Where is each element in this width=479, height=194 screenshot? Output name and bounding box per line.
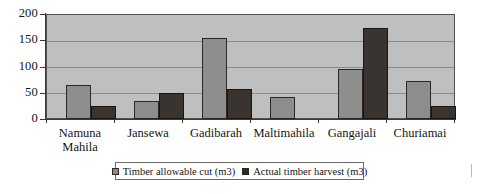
- x-axis-label-gangajali: Gangajali: [318, 126, 386, 140]
- x-axis-label-namuna-mahila: Namuna Mahila: [46, 126, 114, 154]
- y-axis-label-150: 150: [0, 33, 38, 45]
- legend-swatch-icon-allowable-cut: [112, 168, 119, 175]
- x-tick-2: [182, 119, 183, 123]
- bar-jansewa-allowable-cut: [134, 101, 159, 119]
- bar-chart: 200 150 100 50 0 Namuna Mahila Jansewa: [0, 0, 479, 194]
- bar-namuna-mahila-allowable-cut: [66, 85, 91, 119]
- x-axis-label-maltimahila: Maltimahila: [248, 126, 320, 140]
- legend-swatch-icon-actual-harvest: [242, 168, 249, 175]
- legend-label-allowable-cut: Timber allowable cut (m3): [123, 166, 235, 177]
- x-axis-label-line1: Gangajali: [328, 126, 377, 140]
- x-axis-label-gadibarah: Gadibarah: [182, 126, 250, 140]
- x-tick-6: [454, 119, 455, 123]
- x-axis-label-line1: Gadibarah: [190, 126, 242, 140]
- bar-gadibarah-actual-harvest: [227, 89, 252, 120]
- bar-jansewa-actual-harvest: [159, 93, 184, 119]
- legend-entry-actual-harvest: Actual timber harvest (m3): [242, 166, 367, 177]
- legend-entry-allowable-cut: Timber allowable cut (m3): [112, 166, 235, 177]
- x-tick-5: [386, 119, 387, 123]
- x-axis-label-line1: Churiamai: [394, 126, 447, 140]
- bar-gangajali-allowable-cut: [338, 69, 363, 119]
- chart-legend: Timber allowable cut (m3) Actual timber …: [115, 162, 364, 180]
- x-tick-3: [250, 119, 251, 123]
- y-axis-label-0: 0: [0, 112, 38, 124]
- x-axis-label-churiamai: Churiamai: [386, 126, 454, 140]
- x-axis-label-line1: Namuna: [59, 126, 101, 140]
- x-axis-label-line1: Jansewa: [127, 126, 169, 140]
- scan-artifact-mark: [471, 164, 472, 177]
- y-axis-label-200: 200: [0, 7, 38, 19]
- bar-gadibarah-allowable-cut: [202, 38, 227, 119]
- x-tick-0: [46, 119, 47, 123]
- bar-gangajali-actual-harvest: [363, 28, 388, 119]
- x-tick-1: [114, 119, 115, 123]
- y-axis-label-100: 100: [0, 60, 38, 72]
- x-axis-label-line1: Maltimahila: [253, 126, 314, 140]
- y-axis-label-50: 50: [0, 86, 38, 98]
- bar-churiamai-actual-harvest: [431, 106, 456, 119]
- bar-churiamai-allowable-cut: [406, 81, 431, 119]
- bar-maltimahila-allowable-cut: [270, 97, 295, 119]
- x-tick-4: [318, 119, 319, 123]
- x-axis-label-jansewa: Jansewa: [114, 126, 182, 140]
- x-axis-label-line2: Mahila: [46, 140, 114, 154]
- bar-namuna-mahila-actual-harvest: [91, 106, 116, 119]
- legend-label-actual-harvest: Actual timber harvest (m3): [253, 166, 367, 177]
- bars-layer: [46, 14, 455, 119]
